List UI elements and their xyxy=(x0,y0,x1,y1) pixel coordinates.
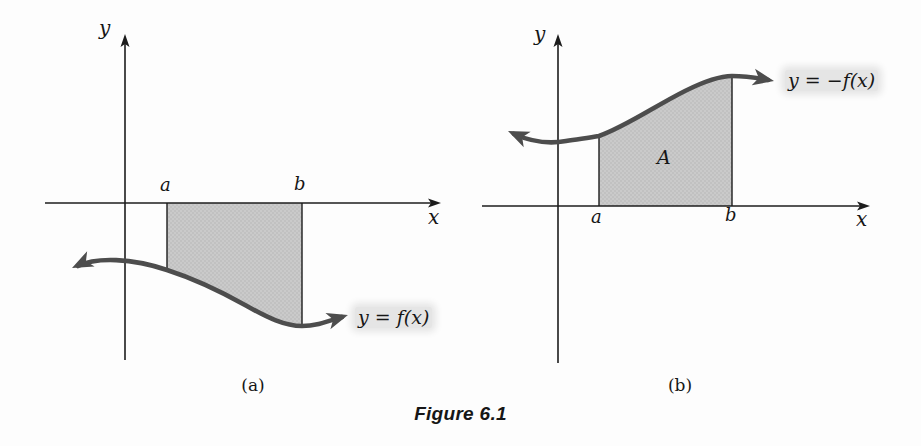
shaded-region-b xyxy=(599,76,732,206)
shaded-region-a xyxy=(167,203,302,326)
y-axis-label-b: y xyxy=(534,24,545,44)
panel-sublabel-a: (a) xyxy=(223,377,283,394)
curve-equation-label-b: y = −f(x) xyxy=(785,70,878,91)
curve-neg-f-left-arrowhead xyxy=(505,123,531,147)
figure-caption: Figure 6.1 xyxy=(0,403,921,425)
figure-6-1: y x a b y = f(x) (a) y x a b A y = −f(x)… xyxy=(0,0,921,446)
point-b-label-b: b xyxy=(725,206,737,224)
x-axis-label-a: x xyxy=(428,207,439,227)
curve-f-right-arrowhead xyxy=(325,307,350,329)
area-label: A xyxy=(657,148,671,167)
point-a-label-b: a xyxy=(591,208,602,226)
figure-artwork xyxy=(0,0,921,446)
x-axis-label-b: x xyxy=(856,209,867,229)
point-a-label-a: a xyxy=(160,176,171,194)
curve-equation-label-a: y = f(x) xyxy=(355,307,432,328)
y-axis-label-a: y xyxy=(99,18,110,38)
panel-sublabel-b: (b) xyxy=(650,377,710,394)
point-b-label-a: b xyxy=(294,175,306,193)
